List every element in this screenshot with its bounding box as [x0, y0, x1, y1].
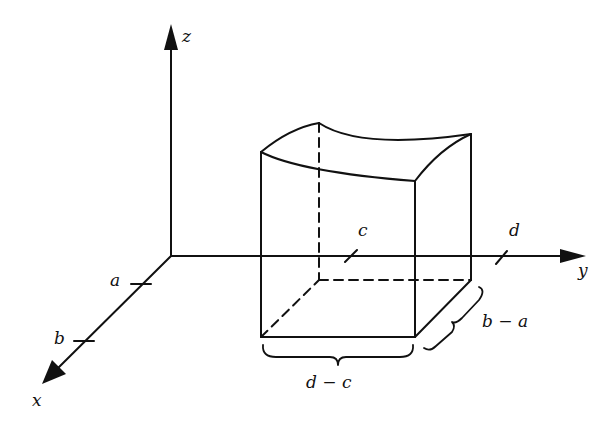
base-right — [415, 280, 471, 337]
y-tick-d — [496, 251, 507, 264]
x-tick-b-label: b — [54, 330, 65, 347]
width-dimension-label: d − c — [306, 374, 351, 391]
x-tick-a-label: a — [110, 272, 120, 289]
y-tick-d-label: d — [509, 222, 520, 239]
brace-d-minus-c — [263, 345, 413, 365]
y-tick-c-label: c — [358, 222, 368, 239]
surface-front-curve — [261, 152, 415, 181]
z-axis-arrowhead — [164, 24, 178, 50]
z-axis-label: z — [182, 28, 191, 45]
y-axis-label: y — [578, 262, 588, 279]
depth-dimension-label: b − a — [482, 313, 528, 330]
surface-back-curve — [319, 123, 471, 140]
x-axis-label: x — [32, 392, 42, 409]
surface-right-curve — [415, 134, 471, 181]
diagram-svg — [0, 0, 616, 423]
surface-back-left-curve — [261, 123, 319, 152]
base-left-hidden — [261, 280, 319, 337]
diagram-canvas: z y x a b c d d − c b − a — [0, 0, 616, 423]
